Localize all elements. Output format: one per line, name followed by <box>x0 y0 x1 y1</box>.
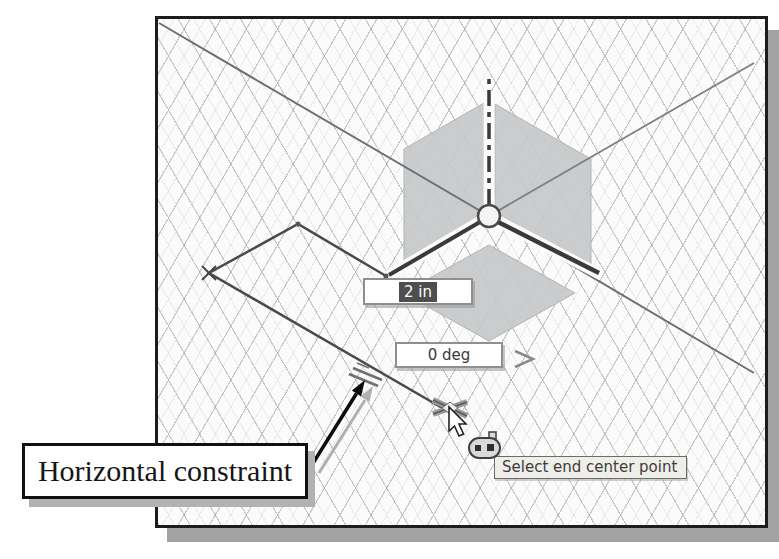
callout-label: Horizontal constraint <box>22 443 308 499</box>
origin-point <box>478 205 500 227</box>
sketch-vertex <box>296 222 301 227</box>
endpoint-marker-icon <box>433 400 467 416</box>
horizontal-constraint-icon <box>349 363 382 386</box>
angle-value[interactable]: 0 deg <box>428 346 471 364</box>
length-value-selected[interactable]: 2 in <box>399 282 437 302</box>
status-tooltip: Select end center point <box>494 456 687 479</box>
page: 2 in 0 deg Select end center point <box>0 0 779 559</box>
start-point-x-marker <box>202 266 216 280</box>
angle-input[interactable]: 0 deg <box>395 342 503 368</box>
angle-leader-chevron-icon <box>515 351 533 367</box>
length-input[interactable]: 2 in <box>363 278 473 305</box>
